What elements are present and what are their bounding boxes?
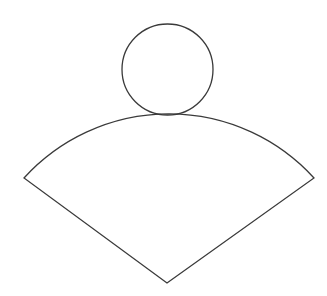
diagram-canvas	[0, 0, 327, 296]
head-circle	[122, 24, 213, 115]
sector-shape	[24, 114, 314, 283]
